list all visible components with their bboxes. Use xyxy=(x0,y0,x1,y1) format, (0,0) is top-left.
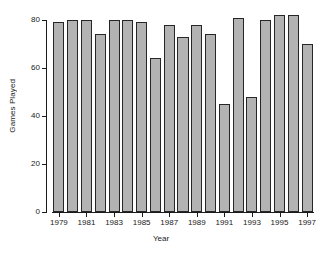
y-axis-tick-mark xyxy=(42,164,47,165)
bar xyxy=(219,104,230,212)
x-axis-tick-label: 1979 xyxy=(50,219,68,227)
y-axis-tick-label: 60 xyxy=(18,64,40,72)
x-axis-tick-mark xyxy=(59,213,60,217)
x-axis-tick-label: 1991 xyxy=(215,219,233,227)
bar xyxy=(53,22,64,212)
bar-chart: Games Played 020406080 19791981198319851… xyxy=(0,0,322,264)
y-axis-tick-label: 80 xyxy=(18,16,40,24)
x-axis-tick-label: 1997 xyxy=(298,219,316,227)
bar xyxy=(205,34,216,212)
y-axis-tick-mark xyxy=(42,68,47,69)
bar xyxy=(274,15,285,212)
bar xyxy=(150,58,161,212)
x-axis-tick-mark xyxy=(86,213,87,217)
bar xyxy=(164,25,175,212)
bar xyxy=(122,20,133,212)
plot-area xyxy=(52,10,314,212)
y-axis-tick-label: 20 xyxy=(18,160,40,168)
y-axis-tick-labels: 020406080 xyxy=(16,0,40,264)
bar xyxy=(246,97,257,212)
x-axis-tick-mark xyxy=(197,213,198,217)
y-axis-tick-mark xyxy=(42,20,47,21)
x-axis-tick-label: 1993 xyxy=(243,219,261,227)
bar xyxy=(302,44,313,212)
x-axis-tick-label: 1995 xyxy=(271,219,289,227)
x-axis-tick-label: 1987 xyxy=(160,219,178,227)
x-axis-tick-label: 1983 xyxy=(105,219,123,227)
bar xyxy=(288,15,299,212)
y-axis-tick-mark xyxy=(42,212,47,213)
bar xyxy=(109,20,120,212)
x-axis-tick-mark xyxy=(224,213,225,217)
x-axis-title: Year xyxy=(0,234,322,243)
x-axis-tick-label: 1985 xyxy=(133,219,151,227)
bar xyxy=(136,22,147,212)
y-axis-tick-label: 0 xyxy=(18,208,40,216)
bar xyxy=(177,37,188,212)
x-axis-tick-mark xyxy=(142,213,143,217)
bar xyxy=(67,20,78,212)
bar xyxy=(233,18,244,212)
x-axis-tick-mark xyxy=(252,213,253,217)
bar xyxy=(260,20,271,212)
y-axis-tick-label: 40 xyxy=(18,112,40,120)
bar xyxy=(191,25,202,212)
x-axis-tick-mark xyxy=(307,213,308,217)
y-axis-tick-mark xyxy=(42,116,47,117)
bar xyxy=(95,34,106,212)
x-axis-tick-label: 1981 xyxy=(78,219,96,227)
bar xyxy=(81,20,92,212)
x-axis-tick-label: 1989 xyxy=(188,219,206,227)
x-axis-tick-mark xyxy=(114,213,115,217)
x-axis-tick-mark xyxy=(169,213,170,217)
x-axis-line xyxy=(52,212,314,213)
x-axis-tick-mark xyxy=(280,213,281,217)
